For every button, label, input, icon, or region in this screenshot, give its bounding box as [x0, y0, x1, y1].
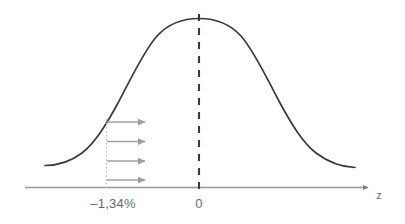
figure-background [0, 0, 405, 224]
figure-canvas: –1,34% 0 z [0, 0, 405, 224]
mean-tick-label: 0 [195, 196, 202, 211]
z-score-tick-label: –1,34% [90, 196, 136, 211]
z-axis-label: z [376, 189, 382, 201]
normal-distribution-diagram: –1,34% 0 z [0, 0, 405, 224]
